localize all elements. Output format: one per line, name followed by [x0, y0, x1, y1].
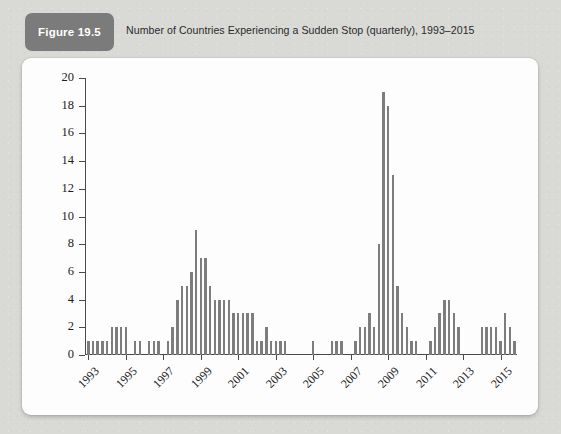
bar — [139, 341, 141, 355]
bar — [382, 92, 384, 355]
y-axis-tick — [79, 355, 85, 356]
bar — [134, 341, 136, 355]
y-axis-tick-label: 12 — [40, 181, 74, 196]
x-axis-tick-label: 2013 — [443, 364, 478, 399]
x-axis-tick-label: 2009 — [368, 364, 403, 399]
bar — [115, 327, 117, 355]
bar — [256, 341, 258, 355]
bar — [335, 341, 337, 355]
bar — [504, 313, 506, 355]
y-axis-tick — [79, 300, 85, 301]
y-axis-tick — [79, 244, 85, 245]
bar — [218, 300, 220, 355]
y-axis-tick-label: 18 — [40, 98, 74, 113]
bar — [209, 286, 211, 355]
bar — [387, 106, 389, 355]
bar — [228, 300, 230, 355]
y-axis-tick-label: 20 — [40, 70, 74, 85]
bar — [106, 341, 108, 355]
y-axis-tick-label: 4 — [40, 292, 74, 307]
bar — [415, 341, 417, 355]
bar — [246, 313, 248, 355]
bar — [190, 272, 192, 355]
x-axis-tick-label: 2001 — [218, 364, 253, 399]
bar — [434, 327, 436, 355]
x-axis-tick-label: 2005 — [293, 364, 328, 399]
bar — [453, 313, 455, 355]
bar — [87, 341, 89, 355]
bar — [148, 341, 150, 355]
x-axis-tick-label: 2011 — [406, 364, 441, 399]
bar — [509, 327, 511, 355]
bar — [96, 341, 98, 355]
y-axis-tick — [79, 106, 85, 107]
y-axis-tick-label: 16 — [40, 125, 74, 140]
bar — [312, 341, 314, 355]
bar — [448, 300, 450, 355]
bar — [195, 230, 197, 355]
x-axis-tick-label: 2003 — [256, 364, 291, 399]
bar — [223, 300, 225, 355]
bar — [359, 327, 361, 355]
bar — [410, 341, 412, 355]
figure-number-badge: Figure 19.5 — [25, 13, 114, 51]
y-axis-tick — [79, 327, 85, 328]
y-axis-tick — [79, 189, 85, 190]
bar — [111, 327, 113, 355]
plot-area: 02468101214161820 1993199519971999200120… — [22, 58, 538, 415]
x-axis-tick-label: 1993 — [68, 364, 103, 399]
bar — [214, 300, 216, 355]
bar — [204, 258, 206, 355]
bar — [200, 258, 202, 355]
bar — [513, 341, 515, 355]
y-axis-tick — [79, 161, 85, 162]
bar — [265, 327, 267, 355]
bar-series — [86, 78, 517, 355]
x-axis-tick-label: 2007 — [331, 364, 366, 399]
y-axis-tick-label: 2 — [40, 319, 74, 334]
bar — [485, 327, 487, 355]
y-axis-tick — [79, 78, 85, 79]
bar — [167, 341, 169, 355]
y-axis-tick — [79, 133, 85, 134]
bar — [495, 327, 497, 355]
bar — [429, 341, 431, 355]
bar — [232, 313, 234, 355]
bar — [331, 341, 333, 355]
y-axis-tick-label: 6 — [40, 264, 74, 279]
bar — [171, 327, 173, 355]
bar — [443, 300, 445, 355]
bar — [270, 341, 272, 355]
figure-header: Figure 19.5 Number of Countries Experien… — [0, 13, 561, 53]
bar — [186, 286, 188, 355]
bar — [284, 341, 286, 355]
y-axis-tick — [79, 217, 85, 218]
bar — [275, 341, 277, 355]
bar — [242, 313, 244, 355]
y-axis-tick-label: 8 — [40, 236, 74, 251]
bar — [181, 286, 183, 355]
bar — [279, 341, 281, 355]
y-axis-tick-label: 0 — [40, 347, 74, 362]
bar — [354, 341, 356, 355]
bar — [481, 327, 483, 355]
bar — [401, 313, 403, 355]
bar — [499, 341, 501, 355]
bar — [101, 341, 103, 355]
bar — [153, 341, 155, 355]
bar — [373, 327, 375, 355]
bar — [125, 327, 127, 355]
bar — [251, 313, 253, 355]
x-axis-tick-label: 1995 — [106, 364, 141, 399]
bar — [260, 341, 262, 355]
y-axis-tick-label: 10 — [40, 209, 74, 224]
figure-19-5: Figure 19.5 Number of Countries Experien… — [0, 0, 561, 434]
bar — [92, 341, 94, 355]
y-axis-tick-label: 14 — [40, 153, 74, 168]
bar — [120, 327, 122, 355]
x-axis-tick-label: 1999 — [181, 364, 216, 399]
bar — [457, 327, 459, 355]
bar — [378, 244, 380, 355]
bar — [396, 286, 398, 355]
y-axis-tick — [79, 272, 85, 273]
